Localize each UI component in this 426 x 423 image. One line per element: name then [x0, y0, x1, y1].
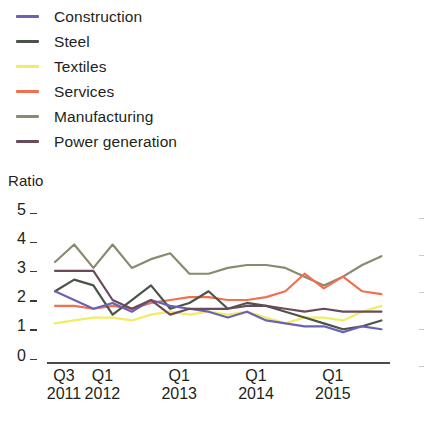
x-axis-tick-label: Q12014 [226, 367, 286, 403]
x-axis-year-label: 2013 [149, 385, 209, 403]
x-axis-tick-label: Q12015 [303, 367, 363, 403]
x-axis-quarter-label: Q1 [72, 367, 132, 385]
x-axis-year-label: 2014 [226, 385, 286, 403]
y-axis-tick-label: 0 [12, 348, 26, 364]
y-axis-tick-label: 1 [12, 318, 26, 334]
y-axis-tick-mark [30, 213, 37, 215]
y-axis-tick-mark [30, 329, 37, 331]
line-chart-figure: ConstructionSteelTextilesServicesManufac… [0, 0, 426, 423]
edge-tick-mark [419, 218, 424, 219]
y-axis-tick-mark [30, 242, 37, 244]
edge-tick-mark [419, 292, 424, 293]
y-axis-tick-mark [30, 300, 37, 302]
x-axis-year-label: 2012 [72, 385, 132, 403]
x-axis-quarter-label: Q1 [303, 367, 363, 385]
x-axis-tick-label: Q12012 [72, 367, 132, 403]
edge-tick-mark [419, 255, 424, 256]
x-axis-line [47, 362, 390, 364]
x-axis-tick-label: Q12013 [149, 367, 209, 403]
series-line [55, 274, 381, 309]
y-axis-tick-mark [30, 271, 37, 273]
series-line [55, 245, 381, 286]
x-axis-quarter-label: Q1 [149, 367, 209, 385]
y-axis-tick-label: 2 [12, 289, 26, 305]
y-axis-tick-label: 3 [12, 260, 26, 276]
y-axis-tick-label: 4 [12, 231, 26, 247]
edge-tick-mark [419, 366, 424, 367]
series-lines [0, 0, 426, 423]
plot-area: 012345 Q32011Q12012Q12013Q12014Q12015 [0, 0, 426, 423]
x-axis-quarter-label: Q1 [226, 367, 286, 385]
edge-tick-mark [419, 329, 424, 330]
y-axis-tick-label: 5 [12, 202, 26, 218]
y-axis-tick-mark [30, 359, 37, 361]
x-axis-year-label: 2015 [303, 385, 363, 403]
